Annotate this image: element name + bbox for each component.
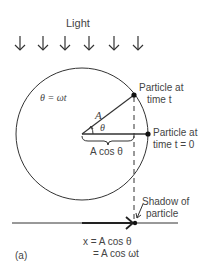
down-arrow-icon <box>60 36 70 50</box>
shadow-label-line2: particle <box>146 208 178 220</box>
panel-label: (a) <box>15 250 27 262</box>
equation-line1: x = A cos θ <box>83 236 132 248</box>
down-arrow-icon <box>133 36 143 50</box>
shadow-label-line1: Shadow of <box>142 196 189 208</box>
particle-t-label-line2: time t <box>147 94 171 106</box>
down-arrow-icon <box>15 36 25 50</box>
brace <box>82 136 134 145</box>
shadow-dot <box>133 221 137 225</box>
angle-label: θ <box>100 122 105 134</box>
equation-line2: = A cos ωt <box>93 248 139 260</box>
particle-0-label-line2: time t = 0 <box>153 139 194 151</box>
down-arrow-icon <box>38 36 48 50</box>
down-arrow-icon <box>84 36 94 50</box>
particle-t-label-line1: Particle at <box>139 82 183 94</box>
particle-at-time-t <box>131 92 136 97</box>
down-arrow-icon <box>109 36 119 50</box>
light-label: Light <box>66 17 90 29</box>
particle-at-time-0 <box>145 131 150 136</box>
projection-label: A cos θ <box>90 146 123 158</box>
light-arrows <box>15 36 143 50</box>
radius-label: A <box>95 109 102 121</box>
particle-0-label-line1: Particle at <box>153 127 197 139</box>
omega-equation: θ = ωt <box>40 92 67 104</box>
